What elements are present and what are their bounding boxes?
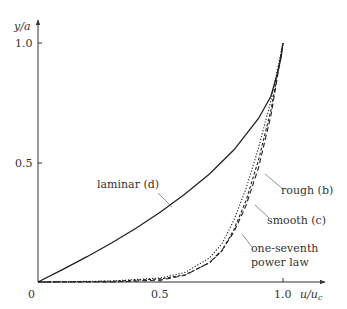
power-law-label-line2: power law	[251, 256, 309, 269]
x-axis-label: u/uc	[300, 288, 323, 302]
velocity-profile-chart: 0 0.5 1.0 0.5 1.0 y/a u/uc laminar (d) r…	[0, 0, 347, 309]
rough-curve	[38, 43, 283, 282]
power-law-label-line1: one-seventh	[251, 242, 318, 255]
x-tick-label-1.0: 1.0	[274, 288, 292, 301]
x-tick-label-0.5: 0.5	[151, 288, 169, 301]
laminar-leader	[158, 193, 172, 207]
y-tick-label-1.0: 1.0	[15, 37, 33, 50]
smooth-label: smooth (c)	[267, 214, 326, 227]
y-axis-label: y/a	[13, 20, 30, 33]
laminar-label: laminar (d)	[97, 178, 159, 191]
rough-label: rough (b)	[281, 184, 333, 197]
one-seventh-power-law-curve	[38, 43, 283, 282]
laminar-curve	[38, 43, 283, 282]
origin-label: 0	[28, 288, 35, 301]
smooth-curve	[38, 43, 283, 282]
y-tick-label-0.5: 0.5	[15, 157, 33, 170]
